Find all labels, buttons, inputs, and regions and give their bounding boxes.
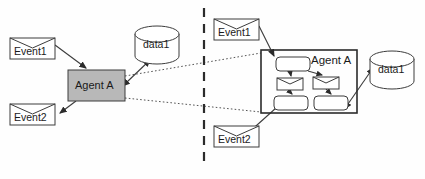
right-event2-label: Event2: [218, 133, 251, 145]
left-agent-a-label: Agent A: [75, 79, 114, 91]
inner-task-bottom-left[interactable]: [274, 96, 308, 110]
node-left-event2[interactable]: Event2: [10, 104, 55, 125]
right-panel: Event1 Event2 Agent A: [214, 19, 414, 147]
left-event2-label: Event2: [14, 111, 47, 123]
node-right-event2[interactable]: Event2: [214, 126, 259, 147]
inner-event-right[interactable]: [313, 77, 339, 89]
edge-right-agent-to-data1: [348, 68, 373, 104]
diagram-canvas: Event1 Event2 Agent A data1: [0, 0, 425, 179]
left-panel: Event1 Event2 Agent A data1: [10, 26, 179, 125]
node-left-agent-a[interactable]: Agent A: [68, 70, 125, 101]
right-event1-label: Event1: [218, 26, 251, 38]
left-event1-label: Event1: [14, 45, 47, 57]
inner-task-top[interactable]: [276, 57, 310, 71]
cross-link-lower: [125, 98, 261, 112]
node-left-event1[interactable]: Event1: [10, 38, 55, 59]
right-agent-a-label: Agent A: [311, 54, 352, 66]
edge-left-agent-to-event2: [60, 101, 76, 113]
inner-task-bottom-right[interactable]: [314, 96, 348, 110]
right-data1-label: data1: [378, 63, 404, 75]
left-data1-label: data1: [143, 38, 169, 50]
node-left-data1[interactable]: data1: [135, 26, 179, 64]
inner-event-left[interactable]: [277, 78, 303, 90]
node-right-data1[interactable]: data1: [370, 51, 414, 89]
diagram-svg: Event1 Event2 Agent A data1: [0, 0, 425, 179]
node-right-event1[interactable]: Event1: [214, 19, 259, 40]
node-right-agent-a[interactable]: Agent A: [261, 50, 357, 113]
edge-left-event1-to-agent: [55, 45, 86, 68]
